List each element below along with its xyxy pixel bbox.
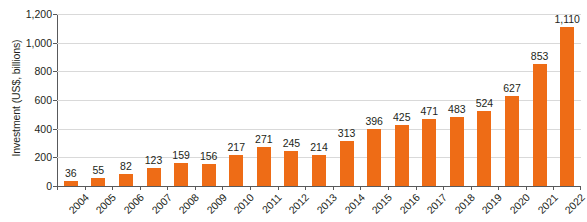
bar-value-label: 483: [448, 103, 466, 115]
bar-value-label: 1,110: [554, 13, 580, 25]
bar-slot: 471: [416, 14, 444, 186]
bar-slot: 214: [305, 14, 333, 186]
bar-slot: 55: [85, 14, 113, 186]
x-label-slot: 2019: [471, 190, 499, 222]
bar-value-label: 313: [338, 127, 356, 139]
x-axis-tick-label: 2022: [562, 191, 587, 216]
bar: [202, 164, 216, 186]
x-label-slot: 2021: [526, 190, 554, 222]
bar-slot: 483: [443, 14, 471, 186]
x-label-slot: 2014: [333, 190, 361, 222]
x-label-slot: 2012: [278, 190, 306, 222]
bar: [257, 147, 271, 186]
x-label-slot: 2018: [443, 190, 471, 222]
bar-slot: 123: [140, 14, 168, 186]
bar: [560, 27, 574, 186]
bar-slot: 217: [222, 14, 250, 186]
bar-slot: 36: [57, 14, 85, 186]
bar: [119, 174, 133, 186]
bar-value-label: 271: [255, 133, 273, 145]
bar-value-label: 471: [421, 105, 439, 117]
bar: [284, 151, 298, 186]
bar-value-label: 123: [145, 154, 163, 166]
bar: [91, 178, 105, 186]
bar: [505, 96, 519, 186]
x-label-slot: 2006: [112, 190, 140, 222]
bar-value-label: 159: [172, 149, 190, 161]
x-label-slot: 2010: [222, 190, 250, 222]
bar: [477, 111, 491, 186]
bar-slot: 627: [498, 14, 526, 186]
x-label-slot: 2020: [498, 190, 526, 222]
x-label-slot: 2011: [250, 190, 278, 222]
bar-value-label: 36: [65, 167, 77, 179]
x-label-slot: 2016: [388, 190, 416, 222]
bar-slot: 425: [388, 14, 416, 186]
y-axis-tick-label: 800: [34, 65, 52, 77]
bar-value-label: 82: [120, 160, 132, 172]
bar: [64, 181, 78, 186]
y-axis-tick-label: 200: [34, 151, 52, 163]
bar-value-label: 245: [283, 137, 301, 149]
bar-slot: 159: [167, 14, 195, 186]
x-label-slot: 2008: [167, 190, 195, 222]
bar-value-label: 853: [531, 50, 549, 62]
bar: [367, 129, 381, 186]
bar-value-label: 156: [200, 150, 218, 162]
bar-value-label: 217: [227, 141, 245, 153]
bar-slot: 396: [360, 14, 388, 186]
bar-slot: 524: [471, 14, 499, 186]
x-label-slot: 2013: [305, 190, 333, 222]
x-label-slot: 2005: [85, 190, 113, 222]
bar: [174, 163, 188, 186]
bar-slot: 245: [278, 14, 306, 186]
bar: [229, 155, 243, 186]
bar-slot: 853: [526, 14, 554, 186]
x-axis-labels: 2004200520062007200820092010201120122013…: [57, 190, 581, 222]
bar-value-label: 396: [365, 115, 383, 127]
bar-value-label: 524: [476, 97, 494, 109]
y-axis-tick-label: 400: [34, 123, 52, 135]
bar: [312, 155, 326, 186]
x-axis-line: [57, 186, 581, 187]
x-label-slot: 2007: [140, 190, 168, 222]
bar-series: 3655821231591562172712452143133964254714…: [57, 14, 581, 186]
x-label-slot: 2022: [553, 190, 581, 222]
bar-slot: 1,110: [553, 14, 581, 186]
x-label-slot: 2015: [360, 190, 388, 222]
bar-value-label: 214: [310, 141, 328, 153]
bar: [340, 141, 354, 186]
x-label-slot: 2017: [416, 190, 444, 222]
y-axis-title: Investment (US$, billions): [10, 13, 22, 183]
plot-area: 02004006008001,0001,200 3655821231591562…: [57, 14, 581, 187]
bar: [422, 119, 436, 187]
bar-slot: 156: [195, 14, 223, 186]
bar-slot: 271: [250, 14, 278, 186]
bar-value-label: 425: [393, 111, 411, 123]
y-axis-tick-label: 1,200: [26, 8, 52, 20]
y-axis-tick-label: 1,000: [26, 37, 52, 49]
bar-chart: Investment (US$, billions) 0200400600800…: [0, 0, 587, 222]
bar: [147, 168, 161, 186]
x-label-slot: 2004: [57, 190, 85, 222]
y-axis-tick-label: 0: [46, 180, 52, 192]
bar-slot: 313: [333, 14, 361, 186]
bar: [395, 125, 409, 186]
bar-slot: 82: [112, 14, 140, 186]
bar-value-label: 627: [503, 82, 521, 94]
bar: [533, 64, 547, 186]
y-axis-tick-label: 600: [34, 94, 52, 106]
bar: [450, 117, 464, 186]
bar-value-label: 55: [93, 164, 105, 176]
x-label-slot: 2009: [195, 190, 223, 222]
